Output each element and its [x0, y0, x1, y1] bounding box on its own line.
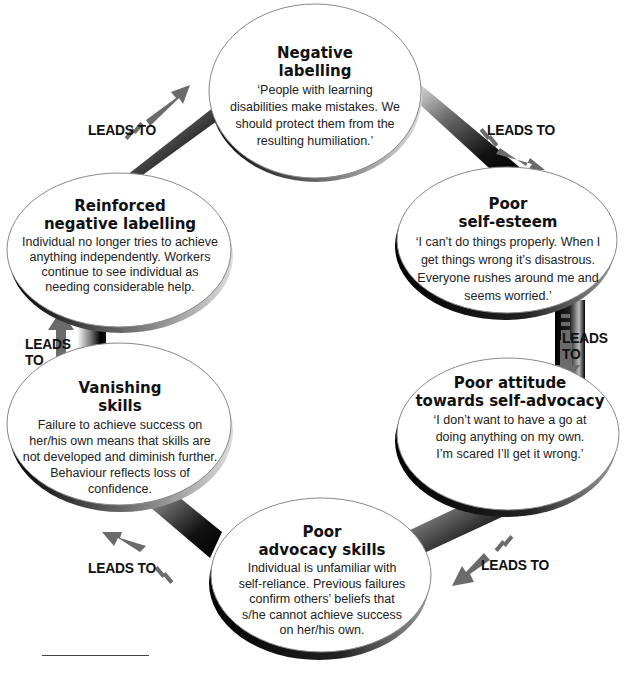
connector-label-lower-right: LEADS TO — [481, 557, 549, 573]
connector-label-right: LEADS TO — [562, 330, 608, 362]
node-title: Poor — [302, 523, 341, 541]
connector-label-line: LEADS — [25, 336, 71, 352]
connector-label-lower-left: LEADS TO — [88, 560, 156, 576]
node-title: Reinforced — [74, 197, 166, 215]
node-title: Poor — [488, 195, 527, 213]
node-description: Individual is unfamiliar with self-relia… — [236, 561, 408, 639]
node-description: Failure to achieve success on her/his ow… — [20, 417, 220, 497]
node-title: negative labelling — [44, 215, 196, 233]
node-title: labelling — [278, 62, 351, 80]
connector-label-upper-left: LEADS TO — [88, 122, 156, 138]
node-description: ‘I can’t do things properly. When I get … — [410, 233, 606, 305]
node-poor-attitude-self-advocacy: Poor attitude towards self-advocacy ‘I d… — [408, 374, 612, 463]
node-title: skills — [98, 397, 141, 415]
connector-label-line: LEADS — [562, 330, 608, 346]
node-title: advocacy skills — [258, 541, 385, 559]
node-vanishing-skills: Vanishing skills Failure to achieve succ… — [14, 379, 226, 497]
node-title: Poor attitude — [454, 374, 567, 392]
node-negative-labelling: Negative labelling ‘People with learning… — [222, 44, 408, 150]
connector-label-left: LEADS TO — [25, 336, 71, 368]
node-poor-advocacy-skills: Poor advocacy skills Individual is unfam… — [222, 523, 422, 639]
node-title: Negative — [277, 44, 353, 62]
connector-label-upper-right: LEADS TO — [487, 122, 555, 138]
arrow-up-left-icon — [102, 532, 173, 584]
node-reinforced-negative-labelling: Reinforced negative labelling Individual… — [14, 197, 226, 295]
node-description: ‘People with learning disabilities make … — [230, 82, 400, 150]
node-description: ‘I don’t want to have a go at doing anyt… — [430, 412, 590, 463]
node-title: towards self-advocacy — [415, 392, 604, 410]
node-title: Vanishing — [79, 379, 162, 397]
node-title: self-esteem — [459, 213, 558, 231]
node-description: Individual no longer tries to achieve an… — [22, 235, 218, 295]
node-poor-self-esteem: Poor self-esteem ‘I can’t do things prop… — [403, 195, 613, 305]
connector-label-line: TO — [562, 346, 608, 362]
connector-label-line: TO — [25, 352, 71, 368]
footnote-divider — [42, 655, 149, 656]
